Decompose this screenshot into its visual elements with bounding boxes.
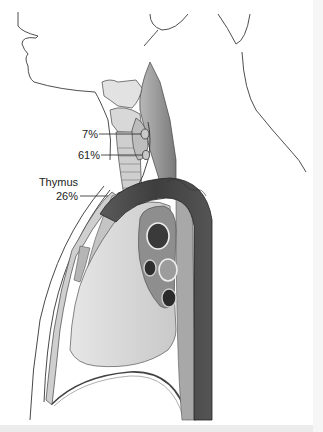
label-thymus: Thymus bbox=[20, 176, 78, 188]
anatomy-illustration bbox=[0, 0, 323, 432]
label-thymus-parathyroid-26pct: 26% bbox=[44, 190, 78, 202]
posterior-muscle-column bbox=[176, 196, 196, 420]
diaphragm bbox=[52, 372, 188, 420]
bronchus-section-left bbox=[144, 260, 156, 276]
image-border-right bbox=[313, 0, 323, 432]
jaw-outline bbox=[150, 14, 188, 30]
label-upper-parathyroid-7pct: 7% bbox=[70, 128, 98, 140]
diaphragm-inner bbox=[54, 376, 184, 420]
ear-lobe-outline bbox=[144, 30, 158, 46]
pulmonary-artery-section bbox=[147, 223, 169, 249]
label-lower-parathyroid-61pct: 61% bbox=[68, 149, 100, 161]
bronchus-section-lower bbox=[162, 289, 176, 307]
figure-canvas: 7% 61% Thymus 26% bbox=[0, 0, 323, 432]
lower-parathyroid-gland bbox=[143, 151, 150, 160]
thyroid-cartilage bbox=[102, 80, 142, 108]
back-neck-outline bbox=[218, 14, 306, 172]
image-border-bottom bbox=[0, 425, 313, 432]
upper-parathyroid-gland bbox=[141, 129, 149, 139]
pulmonary-vein-section bbox=[159, 259, 177, 281]
